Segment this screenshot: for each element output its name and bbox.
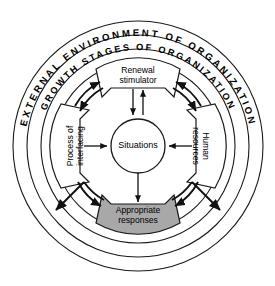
connector-bottomleft-return: [84, 182, 104, 200]
segment-left-label-line1: Process of: [65, 125, 75, 166]
segment-top-label-line1: Renewal: [121, 65, 155, 75]
connector-topleft-inner: [80, 88, 103, 111]
segment-bottom-label-line2: responses: [118, 215, 158, 225]
segment-bottom-label-line1: Appropriate: [116, 205, 161, 215]
organization-renewal-diagram: EXTERNAL ENVIRONMENT OF ORGANIZATION GRO…: [0, 0, 275, 286]
segment-left-label-line2: interfacing: [75, 126, 85, 166]
segment-left-process-of-interfacing: Process of interfacing: [50, 104, 89, 188]
segment-right-label-line2: resources: [191, 127, 201, 165]
segment-right-human-resources: Human resources: [187, 104, 226, 188]
diagram-canvas: EXTERNAL ENVIRONMENT OF ORGANIZATION GRO…: [0, 0, 275, 286]
segment-top-label-line2: stimulator: [119, 75, 156, 85]
connector-topright-inner: [173, 88, 196, 111]
center-node-situations: Situations: [111, 119, 165, 173]
segment-right-label-line1: Human: [201, 132, 211, 160]
connector-topleft-outer: [75, 82, 100, 106]
segment-top-renewal-stimulator: Renewal stimulator: [96, 58, 180, 97]
connector-topright-outer: [176, 82, 201, 106]
connector-bottomright-return: [172, 182, 192, 200]
center-label: Situations: [118, 140, 158, 150]
